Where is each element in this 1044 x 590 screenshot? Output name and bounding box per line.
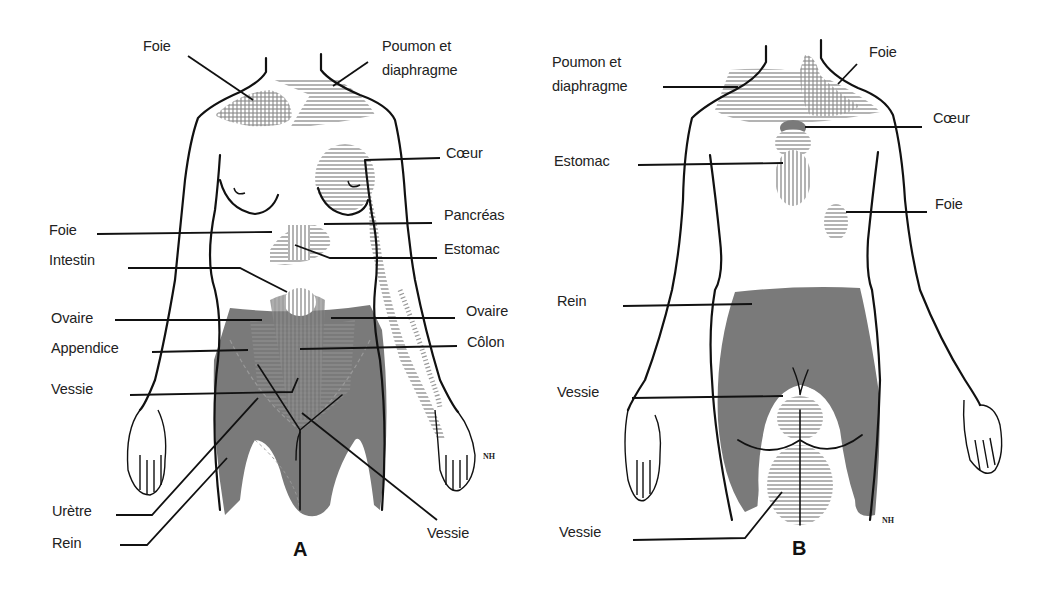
label-b-vessie-lower: Vessie <box>559 524 601 541</box>
label-a-foie-top: Foie <box>143 38 171 55</box>
label-a-rein: Rein <box>52 535 81 552</box>
label-a-estomac: Estomac <box>444 241 500 258</box>
label-a-vessie-left: Vessie <box>51 381 93 398</box>
label-a-intestin: Intestin <box>49 252 95 269</box>
shaded-region-foie-b-mid <box>824 204 848 240</box>
label-a-colon: Côlon <box>467 334 504 351</box>
label-b-foie-mid: Foie <box>935 196 963 213</box>
label-a-ovaire-right: Ovaire <box>466 303 508 320</box>
signature-a: NH <box>483 452 495 461</box>
label-a-vessie-right: Vessie <box>427 525 469 542</box>
shaded-region-foie-a <box>215 90 292 126</box>
shaded-region-poumon-b <box>715 69 880 124</box>
figure-a-caption: A <box>293 538 307 561</box>
label-b-foie-top: Foie <box>869 44 897 61</box>
label-a-poumon-line2: diaphragme <box>382 62 458 79</box>
label-b-poumon-line1: Poumon et <box>552 54 621 71</box>
shaded-region-estomac-b <box>775 150 811 206</box>
label-a-ovaire-left: Ovaire <box>51 310 93 327</box>
label-b-rein: Rein <box>557 293 586 310</box>
label-a-poumon-line1: Poumon et <box>382 38 451 55</box>
referred-pain-diagram <box>0 0 1044 590</box>
label-b-poumon-line2: diaphragme <box>552 78 628 95</box>
label-b-coeur: Cœur <box>933 110 970 127</box>
label-b-estomac: Estomac <box>554 153 610 170</box>
label-a-uretre: Urètre <box>52 503 92 520</box>
label-a-appendice: Appendice <box>51 340 119 357</box>
figure-a-body <box>128 54 476 516</box>
label-b-vessie-upper: Vessie <box>557 384 599 401</box>
signature-b: NH <box>882 516 894 525</box>
label-a-pancreas: Pancréas <box>444 207 504 224</box>
label-a-coeur: Cœur <box>446 145 483 162</box>
figure-b-caption: B <box>792 537 806 560</box>
label-a-foie-mid: Foie <box>49 222 77 239</box>
